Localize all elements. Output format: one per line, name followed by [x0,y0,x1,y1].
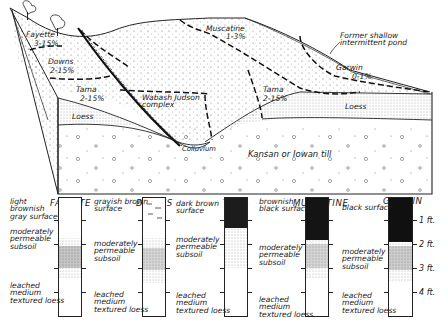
tama-right-slope-label: Tama [263,86,284,93]
fayette-slope-value: 3-15% [34,40,58,47]
tama-subsoil-desc: moderately permeable subsoil [176,236,220,258]
muscatine-slope-value: 1-3% [226,33,246,40]
fayette-slope-label: Fayette [26,31,55,38]
muscatine-subsoil-desc: moderately permeable subsoil [259,244,303,266]
garwin-surface-desc: black surface [342,204,393,211]
tama-left-slope-label: Tama [76,86,97,93]
downs-slope-label: Downs [48,58,73,65]
depth-4ft: 4 ft. [419,288,435,297]
depth-1ft: 1 ft. [419,216,435,225]
loess-left-label: Loess [72,113,93,120]
till-label: Kansan or Iowan till [248,150,331,159]
fayette-surface-desc: light brownish gray surface [10,198,58,220]
colluvium-label: Colluvium [182,146,216,153]
depth-2ft: 2 ft. [419,240,435,249]
tama-left-slope-value: 2-15% [80,95,104,102]
downs-parent-desc: leached medium textured loess [94,291,148,313]
tama-parent-desc: leached medium textured loess [176,292,230,314]
downs-surface-desc: grayish brown surface [94,198,148,213]
loess-right-label: Loess [345,103,366,110]
soil-catena-figure: Fayette 3-15% Downs 2-15% Tama 2-15% Mus… [0,0,448,327]
garwin-parent-desc: leached medium textured loess [342,292,396,314]
garwin-slope-label: Garwin [336,64,363,71]
downs-subsoil-desc: moderately permeable subsoil [94,240,138,262]
tama-surface-desc: dark brown surface [176,200,219,215]
garwin-slope-value: 0-1% [352,73,372,80]
tama-right-slope-value: 2-15% [263,95,287,102]
wabash-judson-complex-label: Wabash Judson complex [142,94,200,109]
downs-slope-value: 2-15% [50,67,74,74]
fayette-parent-desc: leached medium textured loess [10,282,64,304]
depth-3ft: 3 ft. [419,264,435,273]
muscatine-surface-desc: brownish black surface [259,198,310,213]
garwin-subsoil-desc: moderately permeable subsoil [342,248,386,270]
fayette-subsoil-desc: moderately permeable subsoil [10,228,54,250]
muscatine-parent-desc: leached medium textured loess [259,296,313,318]
former-pond-label: Former shallow intermittent pond [340,32,407,47]
